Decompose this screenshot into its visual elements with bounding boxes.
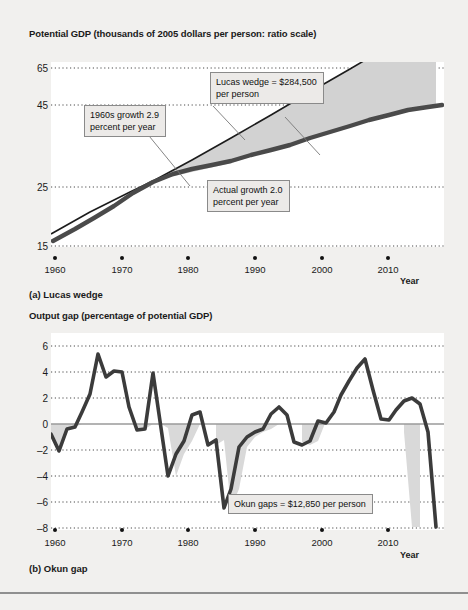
panel-a-xtick-dot-1970 [120, 256, 124, 260]
panel-b-xtick-dot-1990 [253, 528, 257, 532]
bottom-divider [0, 592, 468, 594]
panel-b-ytick-neg6: –6 [22, 497, 48, 508]
panel-a-title: Potential GDP (thousands of 2005 dollars… [29, 28, 316, 39]
figure-container: Potential GDP (thousands of 2005 dollars… [0, 0, 468, 610]
panel-b-ytick-4: 4 [22, 367, 48, 378]
panel-a-xtick-2000: 2000 [302, 264, 342, 275]
panel-b-caption: (b) Okun gap [29, 563, 88, 574]
callout-1960s-growth: 1960s growth 2.9 percent per year [84, 105, 166, 137]
panel-a-ytick-65: 65 [22, 63, 48, 74]
callout-lucas-wedge: Lucas wedge = $284,500 per person [210, 72, 324, 104]
panel-b-xtick-dot-1960 [53, 528, 57, 532]
callout-1960s-growth-line1: 1960s growth 2.9 [90, 109, 159, 121]
panel-b-ytick-2: 2 [22, 393, 48, 404]
panel-a-xtick-1960: 1960 [35, 264, 75, 275]
callout-okun-gaps: Okun gaps = $12,850 per person [228, 494, 373, 514]
panel-b-xtick-dot-1980 [186, 528, 190, 532]
panel-a-xtick-dot-1990 [253, 256, 257, 260]
panel-a-ytick-45: 45 [22, 100, 48, 111]
panel-b-xtick-1970: 1970 [102, 537, 142, 548]
panel-a-xtick-dot-1960 [53, 256, 57, 260]
panel-a-xtick-1970: 1970 [102, 264, 142, 275]
callout-1960s-growth-line2: percent per year [90, 121, 159, 133]
panel-a-ytick-15: 15 [22, 241, 48, 252]
panel-a-xtick-2010: 2010 [368, 264, 408, 275]
panel-a-ytick-25: 25 [22, 182, 48, 193]
panel-a-caption: (a) Lucas wedge [29, 289, 103, 300]
callout-actual-growth-line2: percent per year [213, 196, 283, 208]
panel-b-ytick-6: 6 [22, 341, 48, 352]
callout-lucas-wedge-line2: per person [216, 88, 317, 100]
callout-actual-growth-line1: Actual growth 2.0 [213, 184, 283, 196]
panel-b-ytick-neg4: –4 [22, 471, 48, 482]
panel-b-xtick-1960: 1960 [35, 537, 75, 548]
panel-b-xtick-2000: 2000 [302, 537, 342, 548]
callout-actual-growth: Actual growth 2.0 percent per year [207, 180, 290, 212]
panel-b-xtick-1980: 1980 [168, 537, 208, 548]
panel-b-xtick-dot-2010 [386, 528, 390, 532]
panel-b-xtick-2010: 2010 [368, 537, 408, 548]
panel-b-xtick-1990: 1990 [235, 537, 275, 548]
panel-a-xtick-dot-2010 [386, 256, 390, 260]
panel-b-ytick-neg8: –8 [22, 523, 48, 534]
panel-b-xtick-dot-1970 [120, 528, 124, 532]
panel-b-ytick-0: 0 [22, 419, 48, 430]
panel-b-xaxis-label: Year [400, 550, 419, 560]
panel-b-title: Output gap (percentage of potential GDP) [29, 310, 212, 321]
callout-lucas-wedge-line1: Lucas wedge = $284,500 [216, 76, 317, 88]
panel-b-xtick-dot-2000 [320, 528, 324, 532]
panel-a-xaxis-label: Year [400, 276, 419, 286]
panel-a-xtick-dot-2000 [320, 256, 324, 260]
panel-a-xtick-1990: 1990 [235, 264, 275, 275]
panel-b-ytick-neg2: –2 [22, 445, 48, 456]
panel-a-xtick-dot-1980 [186, 256, 190, 260]
panel-a-xtick-1980: 1980 [168, 264, 208, 275]
